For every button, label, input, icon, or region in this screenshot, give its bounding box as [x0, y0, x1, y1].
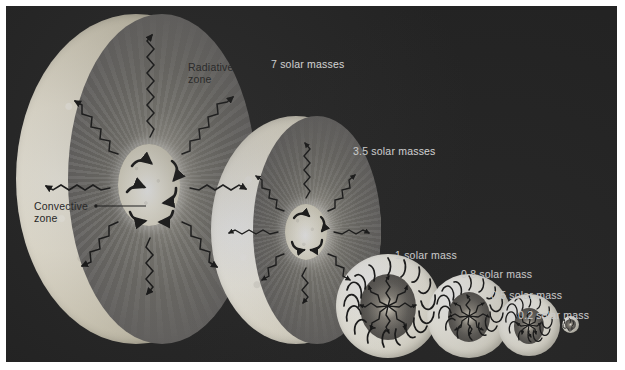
label-star-0.2-solar-mass: 0.2 solar mass — [518, 309, 589, 321]
stellar-structure-figure: Radiative zone Convective zone 7 solar m… — [0, 0, 625, 370]
star-0.8-radiative-core — [448, 292, 490, 342]
label-star-7-solar-masses: 7 solar masses — [271, 58, 344, 70]
label-convective-zone: Convective zone — [34, 200, 88, 224]
label-star-1-solar-mass: 1 solar mass — [395, 249, 457, 261]
star-7-convective-core — [118, 144, 180, 226]
label-star-0.8-solar-mass: 0.8 solar mass — [461, 268, 532, 280]
label-star-3.5-solar-masses: 3.5 solar masses — [353, 145, 436, 157]
label-convective-zone-line2: zone — [34, 212, 88, 224]
label-star-0.5-solar-mass: 0.5 solar mass — [491, 289, 562, 301]
label-radiative-zone: Radiative zone — [188, 61, 234, 85]
diagram-panel: Radiative zone Convective zone 7 solar m… — [6, 6, 617, 362]
label-convective-zone-line1: Convective — [34, 200, 88, 212]
star-3.5-convective-core — [285, 204, 327, 260]
star-1-solar-mass — [336, 254, 440, 358]
label-radiative-zone-line1: Radiative — [188, 61, 234, 73]
label-radiative-zone-line2: zone — [188, 73, 234, 85]
star-0.5-solar-mass — [498, 294, 560, 356]
star-1-radiative-core — [360, 274, 416, 340]
